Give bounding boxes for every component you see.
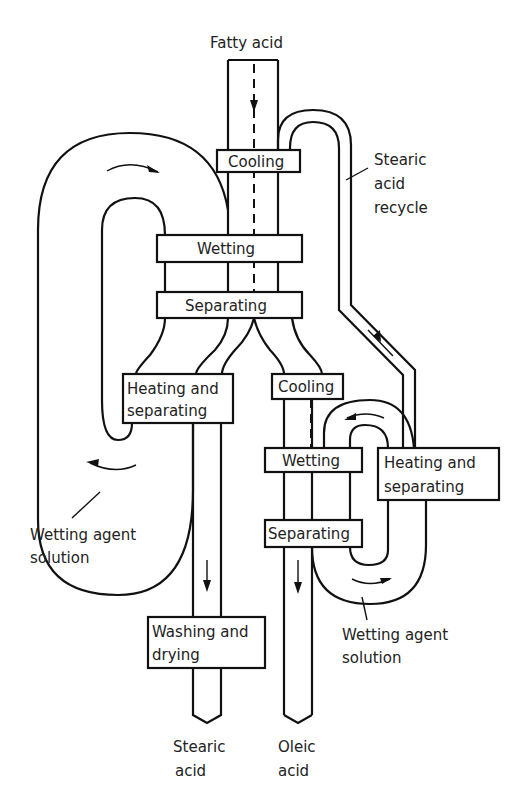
stearic-line	[193, 423, 221, 723]
recycle-label: Stearic acid recycle	[374, 151, 428, 217]
svg-text:separating: separating	[384, 478, 464, 496]
heating-separating-box-right: Heating and separating	[378, 448, 499, 500]
svg-text:drying: drying	[152, 646, 200, 664]
washing-drying-box: Washing and drying	[148, 617, 265, 668]
svg-text:Cooling: Cooling	[228, 153, 284, 171]
svg-text:Separating: Separating	[268, 525, 350, 543]
cooling-box-right: Cooling	[272, 374, 343, 399]
process-flow-diagram: Fatty acid Stearic acid recycle	[0, 0, 524, 796]
svg-text:Heating and: Heating and	[127, 380, 219, 398]
svg-text:Oleic: Oleic	[278, 738, 316, 756]
right-solution-label: Wetting agent solution	[342, 626, 448, 667]
svg-text:Cooling: Cooling	[278, 378, 334, 396]
circulation-arrow-right-icon	[380, 578, 392, 584]
separator-branches	[136, 318, 322, 374]
heating-separating-box-left: Heating and separating	[123, 374, 233, 423]
left-solution-label: Wetting agent solution	[30, 526, 136, 567]
circulation-arrow-right-icon	[147, 165, 160, 173]
svg-text:separating: separating	[127, 402, 207, 420]
svg-text:Heating and: Heating and	[384, 454, 476, 472]
svg-text:Wetting agent: Wetting agent	[30, 526, 136, 544]
svg-text:recycle: recycle	[374, 199, 428, 217]
wetting-box-top: Wetting	[157, 235, 302, 262]
svg-text:acid: acid	[278, 762, 309, 780]
svg-text:Separating: Separating	[185, 297, 267, 315]
svg-text:Wetting: Wetting	[282, 452, 340, 470]
cooling-box-top: Cooling	[217, 150, 300, 172]
wetting-box-right: Wetting	[265, 448, 362, 472]
oleic-outlet-label: Oleic acid	[278, 738, 316, 780]
right-wetting-loop	[312, 400, 426, 620]
svg-text:Wetting: Wetting	[197, 240, 255, 258]
svg-text:Stearic: Stearic	[374, 151, 426, 169]
svg-text:acid: acid	[175, 762, 206, 780]
svg-text:solution: solution	[30, 549, 89, 567]
stearic-outlet-label: Stearic acid	[173, 738, 225, 780]
separating-box-top: Separating	[157, 292, 302, 318]
circulation-arrow-left-icon	[86, 459, 99, 466]
flow-arrow-down-icon	[294, 582, 302, 594]
circulation-arrow-left-icon	[344, 413, 356, 420]
svg-text:acid: acid	[374, 175, 405, 193]
svg-text:Washing and: Washing and	[152, 623, 249, 641]
svg-text:Wetting agent: Wetting agent	[342, 626, 448, 644]
flow-arrow-down-icon	[250, 100, 258, 112]
svg-text:solution: solution	[342, 649, 401, 667]
flow-arrow-down-icon	[203, 580, 211, 592]
separating-box-right: Separating	[265, 520, 362, 547]
svg-text:Stearic: Stearic	[173, 738, 225, 756]
inlet-label: Fatty acid	[210, 34, 283, 52]
